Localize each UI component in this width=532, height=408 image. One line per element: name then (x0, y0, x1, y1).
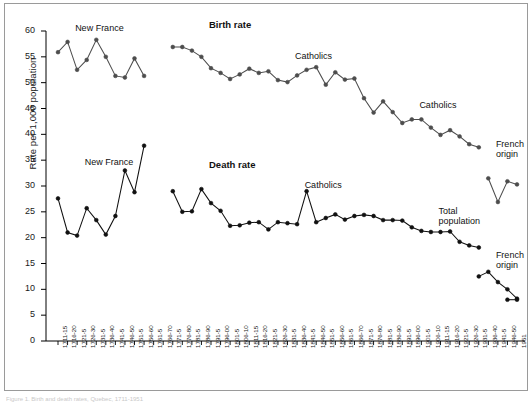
x-tick-label: 1851-5 (328, 329, 335, 348)
x-tick-label: 1721-5 (80, 329, 87, 348)
x-tick-label: 1921-5 (462, 329, 469, 348)
x-tick-label: 1726-30 (89, 325, 96, 348)
data-point (142, 74, 146, 78)
x-tick-label: 1861-5 (347, 329, 354, 348)
x-tick-label: 1801-5 (233, 329, 240, 348)
data-point (94, 38, 98, 42)
data-point (439, 230, 443, 234)
y-tick-label: 20 (13, 232, 35, 242)
x-tick-label: 1806-10 (242, 325, 249, 348)
data-point (94, 218, 98, 222)
x-tick-label: 1826-30 (281, 325, 288, 348)
data-point (372, 214, 376, 218)
y-tick-label: 60 (13, 25, 35, 35)
x-tick-label: 1936-40 (491, 325, 498, 348)
data-point (305, 68, 309, 72)
data-point (238, 73, 242, 77)
data-point (506, 298, 510, 302)
data-point (343, 218, 347, 222)
y-tick-label: 55 (13, 51, 35, 61)
x-tick-label: 1906-10 (434, 325, 441, 348)
x-tick-label: 1881-5 (386, 329, 393, 348)
data-point (75, 68, 79, 72)
data-point (209, 201, 213, 205)
x-tick-label: 1731-5 (99, 329, 106, 348)
data-point (104, 55, 108, 59)
data-point (286, 221, 290, 225)
x-tick-label: 1931-5 (481, 329, 488, 348)
data-point (467, 142, 471, 146)
x-tick-label: 1896-00 (414, 325, 421, 348)
data-point (324, 83, 328, 87)
data-point (496, 200, 500, 204)
data-point (420, 229, 424, 233)
data-point (219, 71, 223, 75)
series-line (488, 178, 517, 202)
data-point (381, 99, 385, 103)
data-point (133, 57, 137, 61)
data-point (267, 228, 271, 232)
data-point (209, 66, 213, 70)
data-point (200, 187, 204, 191)
data-point (448, 128, 452, 132)
y-tick-label: 50 (13, 77, 35, 87)
figure-caption: Figure 1. Birth and death rates, Quebec,… (6, 396, 426, 402)
x-tick-label: 1886-90 (395, 325, 402, 348)
x-tick-label: 1816-20 (261, 325, 268, 348)
data-point (228, 77, 232, 81)
data-point (362, 96, 366, 100)
x-tick-label: 1776-80 (185, 325, 192, 348)
chart-annotation: Catholics (419, 100, 456, 110)
data-point (219, 209, 223, 213)
y-tick-label: 0 (13, 335, 35, 345)
data-point (467, 244, 471, 248)
data-point (286, 80, 290, 84)
chart-annotation: Death rate (209, 160, 255, 170)
x-tick-label: 1766-70 (166, 325, 173, 348)
data-point (66, 40, 70, 44)
data-point (486, 270, 490, 274)
data-point (439, 133, 443, 137)
x-tick-label: 1866-70 (357, 325, 364, 348)
data-point (506, 287, 510, 291)
data-point (314, 220, 318, 224)
data-point (410, 225, 414, 229)
data-point (114, 214, 118, 218)
data-point (180, 210, 184, 214)
y-tick-label: 15 (13, 258, 35, 268)
data-point (429, 230, 433, 234)
x-tick-label: 1926-30 (472, 325, 479, 348)
data-point (333, 213, 337, 217)
x-tick-label: 1761-5 (156, 329, 163, 348)
data-point (114, 74, 118, 78)
data-point (391, 218, 395, 222)
y-tick-label: 35 (13, 154, 35, 164)
chart-annotation: French origin (496, 139, 524, 159)
x-tick-label: 1941-5 (500, 329, 507, 348)
x-tick-label: 1786-90 (204, 325, 211, 348)
data-point (85, 58, 89, 62)
x-tick-label: 1871-5 (367, 329, 374, 348)
y-tick-label: 25 (13, 206, 35, 216)
data-point (400, 219, 404, 223)
chart-annotation: New France (75, 23, 124, 33)
chart-annotation: Total population (439, 206, 481, 226)
data-point (458, 240, 462, 244)
chart-annotation: Birth rate (209, 20, 251, 30)
y-tick-label: 30 (13, 180, 35, 190)
data-point (515, 183, 519, 187)
chart-annotation: French origin (496, 250, 524, 270)
data-point (353, 214, 357, 218)
data-point (276, 220, 280, 224)
data-point (295, 74, 299, 78)
data-point (429, 126, 433, 130)
x-tick-label: 1796-00 (223, 325, 230, 348)
data-point (477, 145, 481, 149)
data-point (343, 78, 347, 82)
data-point (238, 223, 242, 227)
data-point (477, 275, 481, 279)
series-line (479, 272, 517, 299)
data-point (190, 209, 194, 213)
data-point (247, 221, 251, 225)
data-point (295, 222, 299, 226)
